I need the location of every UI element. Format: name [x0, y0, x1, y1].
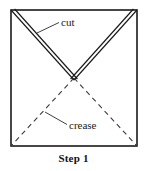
cut-label: cut — [61, 16, 74, 28]
folding-diagram: cut crease — [0, 0, 147, 152]
crease-label: crease — [69, 119, 97, 131]
step-1-figure: cut crease Step 1 — [0, 0, 147, 171]
figure-caption: Step 1 — [0, 152, 147, 164]
